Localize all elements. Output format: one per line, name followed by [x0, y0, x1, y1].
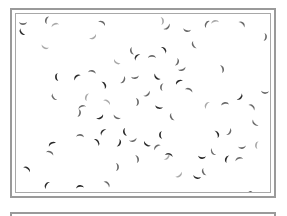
cell	[113, 114, 121, 120]
cell	[198, 156, 206, 159]
cell	[143, 141, 151, 148]
cell	[48, 140, 56, 146]
cell	[183, 28, 191, 32]
cell	[136, 98, 139, 106]
cell	[76, 134, 84, 137]
cell	[175, 78, 183, 85]
cell	[131, 75, 139, 79]
cell	[101, 81, 107, 89]
cell	[41, 45, 50, 51]
micrograph-image	[15, 13, 271, 193]
cell	[248, 103, 256, 111]
cell	[215, 130, 221, 139]
cell	[203, 20, 209, 28]
cell	[44, 16, 49, 24]
cell	[160, 83, 164, 91]
lower-frame	[10, 212, 276, 216]
cell	[238, 20, 246, 28]
cell	[220, 65, 225, 73]
cell	[191, 41, 197, 49]
cell	[251, 119, 259, 127]
cell	[116, 163, 119, 171]
cell	[46, 150, 54, 156]
cell	[19, 22, 27, 25]
cell	[245, 190, 253, 193]
image-frame	[10, 8, 276, 198]
cell	[178, 67, 187, 72]
cell	[175, 172, 183, 179]
cell	[103, 98, 111, 105]
cell	[43, 181, 50, 189]
cell	[161, 46, 168, 54]
cell	[94, 138, 101, 146]
cell	[261, 91, 269, 94]
cell	[89, 34, 97, 41]
cell	[169, 113, 175, 121]
cell	[185, 87, 194, 93]
cell	[23, 165, 31, 172]
cell	[51, 22, 60, 28]
cell	[209, 148, 216, 156]
cell	[238, 146, 246, 150]
cell	[78, 104, 87, 109]
cell	[161, 17, 165, 25]
cell	[163, 24, 171, 32]
cell	[235, 156, 244, 161]
cell	[237, 93, 244, 101]
cell	[211, 19, 219, 23]
cell	[193, 175, 201, 180]
cell	[113, 59, 121, 66]
cell	[201, 168, 207, 177]
cell	[129, 47, 134, 55]
cell	[203, 101, 209, 109]
cell	[117, 139, 122, 148]
cell	[143, 91, 151, 98]
cell-field	[16, 14, 271, 193]
cell	[55, 73, 58, 81]
cell	[77, 109, 81, 117]
cell	[96, 114, 104, 120]
cell	[226, 128, 233, 136]
cell	[129, 138, 138, 143]
cell	[73, 73, 81, 80]
cell	[99, 128, 106, 136]
cell	[104, 180, 112, 188]
cell	[120, 76, 126, 84]
cell	[135, 155, 140, 163]
cell	[84, 93, 89, 102]
cell	[50, 93, 57, 101]
cell	[264, 33, 268, 41]
cell	[76, 185, 84, 189]
cell	[148, 55, 156, 58]
cell	[18, 28, 25, 36]
cell	[175, 58, 180, 67]
cell	[159, 131, 162, 139]
cell	[153, 74, 161, 82]
cell	[254, 141, 258, 149]
cell	[155, 105, 163, 110]
cell	[88, 69, 96, 74]
cell	[122, 128, 127, 136]
cell	[98, 19, 106, 26]
cell	[221, 102, 229, 106]
cell	[224, 155, 229, 164]
cell	[153, 143, 161, 150]
cell	[133, 53, 140, 61]
